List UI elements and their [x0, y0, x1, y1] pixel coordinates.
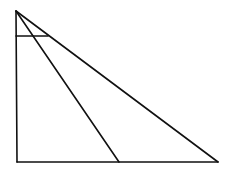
segment-ac: [16, 11, 218, 162]
segment-ad: [16, 11, 119, 162]
triangle-diagram: [0, 0, 235, 179]
segment-ab: [16, 11, 17, 162]
